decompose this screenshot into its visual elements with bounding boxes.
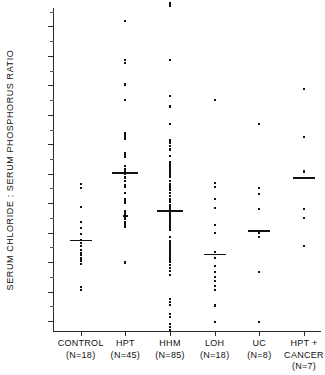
x-group-name: HPT + — [272, 338, 325, 350]
data-point — [169, 192, 171, 194]
data-point — [169, 301, 171, 303]
data-point — [169, 142, 171, 144]
data-point — [258, 236, 260, 238]
x-tick — [81, 332, 82, 336]
data-point — [214, 198, 216, 200]
y-tick-minor — [50, 100, 54, 101]
x-group-name-line2: CANCER — [272, 350, 325, 362]
data-point — [258, 232, 260, 234]
y-tick-major — [48, 174, 54, 175]
data-point — [124, 59, 126, 61]
data-point — [124, 165, 126, 167]
x-group-label: HPT +CANCER(N=7) — [272, 338, 325, 373]
data-point — [214, 99, 216, 101]
data-point — [169, 267, 171, 269]
y-tick-major — [48, 85, 54, 86]
data-point — [169, 313, 171, 315]
data-point — [303, 88, 305, 90]
data-point — [124, 262, 126, 264]
data-point — [124, 138, 126, 140]
data-point — [124, 180, 126, 182]
data-point — [80, 242, 82, 244]
y-tick-major — [48, 203, 54, 204]
data-point — [214, 276, 216, 278]
data-point — [169, 5, 171, 7]
data-point — [169, 176, 171, 178]
y-tick-minor — [50, 12, 54, 13]
x-axis-line — [53, 331, 321, 332]
median-line — [157, 210, 183, 212]
median-line — [204, 254, 226, 256]
data-point — [214, 182, 216, 184]
data-point — [169, 316, 171, 318]
data-point — [258, 271, 260, 273]
data-point — [169, 195, 171, 197]
data-point — [258, 321, 260, 323]
data-point — [169, 323, 171, 325]
data-point — [124, 156, 126, 158]
y-tick-minor — [50, 218, 54, 219]
data-point — [169, 145, 171, 147]
data-point — [169, 106, 171, 108]
data-point — [214, 280, 216, 282]
data-point — [124, 62, 126, 64]
data-point — [124, 226, 126, 228]
data-point — [169, 326, 171, 328]
y-tick-major — [48, 26, 54, 27]
plot-area: 2024283236404448525660 — [53, 8, 321, 332]
x-tick — [170, 332, 171, 336]
data-point — [169, 304, 171, 306]
data-point — [124, 84, 126, 86]
y-tick-major — [48, 233, 54, 234]
data-point — [80, 233, 82, 235]
data-point — [214, 224, 216, 226]
y-tick-minor — [50, 247, 54, 248]
median-line — [248, 230, 270, 232]
data-point — [214, 289, 216, 291]
data-point — [124, 186, 126, 188]
data-point — [80, 227, 82, 229]
y-tick-major — [48, 56, 54, 57]
y-tick-minor — [50, 188, 54, 189]
data-point — [169, 149, 171, 151]
data-point — [169, 274, 171, 276]
data-point — [214, 207, 216, 209]
data-point — [80, 254, 82, 256]
y-tick-major — [48, 115, 54, 116]
data-point — [214, 271, 216, 273]
data-point — [124, 99, 126, 101]
x-tick — [259, 332, 260, 336]
data-point — [303, 171, 305, 173]
data-point — [80, 289, 82, 291]
data-point — [169, 236, 171, 238]
median-line — [293, 177, 315, 179]
data-point — [80, 187, 82, 189]
y-tick-major — [48, 144, 54, 145]
data-point — [169, 155, 171, 157]
data-point — [169, 229, 171, 231]
x-group-count: (N=7) — [272, 361, 325, 373]
y-tick-minor — [50, 277, 54, 278]
median-line — [112, 172, 138, 174]
data-point — [124, 202, 126, 204]
y-tick-minor — [50, 41, 54, 42]
data-point — [80, 183, 82, 185]
scatter-plot-figure: SERUM CHLORIDE : SERUM PHOSPHORUS RATIO … — [0, 0, 325, 375]
data-point — [303, 208, 305, 210]
data-point — [169, 201, 171, 203]
data-point — [80, 249, 82, 251]
data-point — [214, 186, 216, 188]
data-point — [214, 285, 216, 287]
data-point — [169, 95, 171, 97]
data-point — [258, 123, 260, 125]
data-point — [303, 136, 305, 138]
data-point — [80, 206, 82, 208]
y-tick-minor — [50, 159, 54, 160]
data-point — [258, 193, 260, 195]
data-point — [258, 208, 260, 210]
data-point — [303, 245, 305, 247]
data-point — [169, 270, 171, 272]
y-tick-major — [48, 262, 54, 263]
data-point — [124, 218, 126, 220]
data-point — [124, 20, 126, 22]
